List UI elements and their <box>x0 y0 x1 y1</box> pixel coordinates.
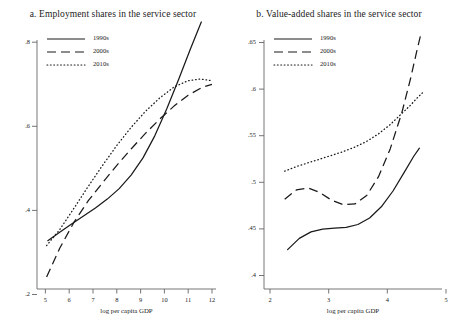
legend-row-2010s: 2010s <box>272 58 336 71</box>
panel-b-legend: 1990s 2000s 2010s <box>272 32 336 71</box>
panel-a-ytick-1: .6 <box>12 122 30 129</box>
legend-key-dashed-icon <box>45 47 87 57</box>
panel-b-plot <box>226 0 452 329</box>
legend-key-dotted-icon <box>45 60 87 70</box>
panel-a-x-axis-title: log per capita GDP <box>37 307 216 314</box>
panel-b-xtick-1: 3 <box>319 296 339 303</box>
panel-a-xtick-0: 5 <box>35 296 55 303</box>
panel-a-xtick-5: 10 <box>154 296 174 303</box>
panel-a-y-ticks <box>32 42 37 294</box>
figure-container: a. Employment shares in the service sect… <box>0 0 452 329</box>
panel-b-xtick-3: 5 <box>436 296 452 303</box>
legend-label-2010s: 2010s <box>320 61 336 68</box>
panel-a-xtick-6: 11 <box>178 296 198 303</box>
panel-a-xtick-3: 8 <box>107 296 127 303</box>
panel-a-ytick-2: .4 <box>12 206 30 213</box>
legend-key-dotted-icon <box>272 60 314 70</box>
panel-b-ytick-3: .5 <box>234 178 256 185</box>
legend-key-solid-icon <box>45 34 87 44</box>
legend-row-2000s: 2000s <box>272 45 336 58</box>
legend-key-solid-icon <box>272 34 314 44</box>
panel-employment-shares: a. Employment shares in the service sect… <box>0 0 226 329</box>
panel-a-series-2000s <box>47 84 212 277</box>
panel-b-x-ticks <box>270 289 446 294</box>
legend-label-2000s: 2000s <box>320 48 336 55</box>
panel-b-ytick-0: .65 <box>234 38 256 45</box>
panel-b-ytick-1: .6 <box>234 85 256 92</box>
panel-a-legend: 1990s 2000s 2010s <box>45 32 109 71</box>
panel-b-y-ticks <box>259 43 264 276</box>
legend-row-1990s: 1990s <box>272 32 336 45</box>
panel-value-added-shares: b. Value-added shares in the service sec… <box>226 0 452 329</box>
panel-b-xtick-2: 4 <box>377 296 397 303</box>
panel-b-ytick-5: .4 <box>234 271 256 278</box>
panel-a-xtick-4: 9 <box>131 296 151 303</box>
panel-a-xtick-1: 6 <box>59 296 79 303</box>
panel-a-xtick-7: 12 <box>202 296 222 303</box>
legend-label-1990s: 1990s <box>320 35 336 42</box>
legend-row-2010s: 2010s <box>45 58 109 71</box>
legend-key-dashed-icon <box>272 47 314 57</box>
legend-label-2010s: 2010s <box>93 61 109 68</box>
panel-b-x-axis-title: log per capita GDP <box>264 307 442 314</box>
panel-b-ytick-2: .55 <box>234 131 256 138</box>
panel-b-series-2010s <box>285 93 423 171</box>
panel-a-plot <box>0 0 226 329</box>
panel-b-ytick-4: .45 <box>234 224 256 231</box>
legend-label-2000s: 2000s <box>93 48 109 55</box>
legend-label-1990s: 1990s <box>93 35 109 42</box>
panel-a-x-ticks <box>45 289 212 294</box>
panel-a-xtick-2: 7 <box>83 296 103 303</box>
panel-a-series-2010s <box>47 79 212 246</box>
panel-b-xtick-0: 2 <box>260 296 280 303</box>
legend-row-2000s: 2000s <box>45 45 109 58</box>
panel-a-ytick-3: .2 <box>12 290 30 297</box>
legend-row-1990s: 1990s <box>45 32 109 45</box>
panel-a-ytick-0: .8 <box>12 38 30 45</box>
